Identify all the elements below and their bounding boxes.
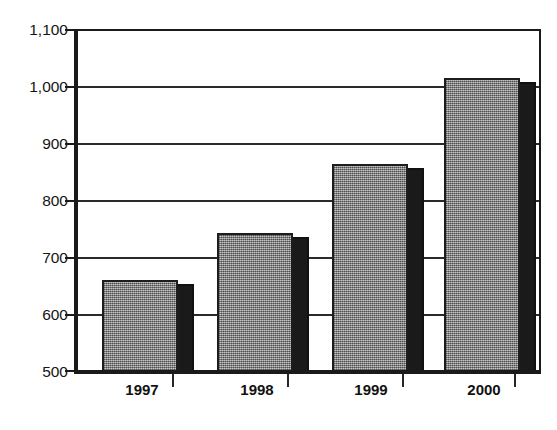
y-tick-label: 600 <box>6 307 68 323</box>
y-tick-label: 1,100 <box>6 22 68 38</box>
bar-face-1998 <box>217 233 293 374</box>
y-tick-label: 700 <box>6 250 68 266</box>
y-tick-label: 500 <box>6 364 68 380</box>
y-tick-label: 1,000 <box>6 79 68 95</box>
bars-layer <box>74 29 541 374</box>
bar-1998[interactable] <box>217 29 309 374</box>
chart-title <box>180 0 550 5</box>
x-label-2000: 2000 <box>467 381 500 398</box>
y-axis-tick-labels: 1,100 1,000 900 800 700 600 500 <box>0 0 68 430</box>
bar-1999[interactable] <box>332 29 424 374</box>
x-label-1997: 1997 <box>125 381 158 398</box>
bar-chart-figure: 1,100 1,000 900 800 700 600 500 <box>0 0 557 430</box>
bar-face-1999 <box>332 164 408 374</box>
y-tick-label: 800 <box>6 193 68 209</box>
bar-2000[interactable] <box>444 29 536 374</box>
bar-1997[interactable] <box>102 29 194 374</box>
x-axis-category-labels: 1997 1998 1999 2000 <box>74 381 541 411</box>
x-label-1998: 1998 <box>240 381 273 398</box>
bar-face-1997 <box>102 280 178 374</box>
bar-face-2000 <box>444 78 520 374</box>
y-tick-label: 900 <box>6 136 68 152</box>
plot-area <box>74 29 541 374</box>
x-label-1999: 1999 <box>354 381 387 398</box>
